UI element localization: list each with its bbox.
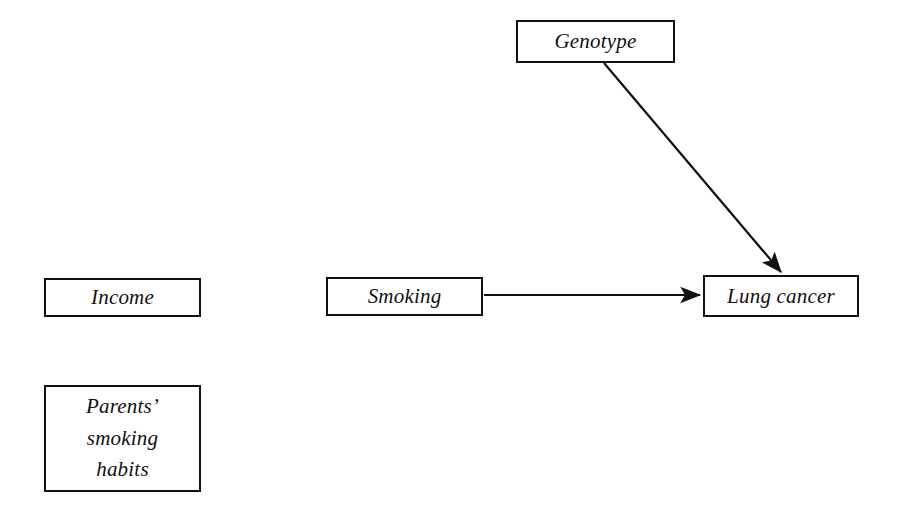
node-parents-smoking-habits-label: Parents’ smoking habits xyxy=(80,391,165,486)
diagram-canvas: Genotype Income Smoking Lung cancer Pare… xyxy=(0,0,901,520)
edge-genotype-to-lung-cancer xyxy=(604,63,781,272)
node-lung-cancer-label: Lung cancer xyxy=(721,283,841,310)
node-smoking[interactable]: Smoking xyxy=(326,277,483,316)
node-income[interactable]: Income xyxy=(44,278,201,317)
node-lung-cancer[interactable]: Lung cancer xyxy=(703,275,859,317)
node-genotype-label: Genotype xyxy=(548,28,642,55)
node-genotype[interactable]: Genotype xyxy=(516,20,675,63)
node-smoking-label: Smoking xyxy=(362,283,448,310)
node-parents-smoking-habits[interactable]: Parents’ smoking habits xyxy=(44,385,201,492)
node-income-label: Income xyxy=(85,284,160,311)
